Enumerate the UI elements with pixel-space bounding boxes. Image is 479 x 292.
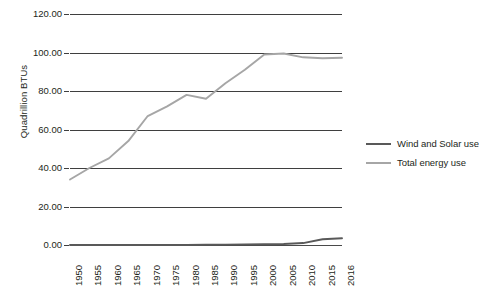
y-tick-label: 40.00	[0, 163, 62, 173]
x-tick-label: 2005	[288, 265, 298, 286]
x-tick-label: 2015	[327, 265, 337, 286]
x-tick-label: 1950	[74, 265, 84, 286]
x-tick-label: 1995	[249, 265, 259, 286]
x-tick-label: 2000	[268, 265, 278, 286]
y-tick-label: 120.00	[0, 9, 62, 19]
y-tick-label: 80.00	[0, 86, 62, 96]
x-tick-label: 1980	[191, 265, 201, 286]
y-tick-mark	[64, 53, 69, 54]
y-tick-mark	[64, 168, 69, 169]
series-line	[70, 238, 342, 245]
legend-item[interactable]: Wind and Solar use	[366, 134, 471, 153]
legend-swatch-icon	[366, 143, 391, 145]
series-line	[70, 53, 342, 179]
y-tick-mark	[64, 245, 69, 246]
y-tick-label: 100.00	[0, 48, 62, 58]
y-tick-mark	[64, 130, 69, 131]
x-tick-label: 1970	[152, 265, 162, 286]
x-tick-label: 2016	[346, 265, 356, 286]
y-tick-mark	[64, 91, 69, 92]
y-tick-label: 0.00	[0, 240, 62, 250]
legend-label: Wind and Solar use	[397, 138, 479, 149]
y-tick-label: 60.00	[0, 125, 62, 135]
legend-label: Total energy use	[397, 157, 466, 168]
x-tick-label: 1975	[171, 265, 181, 286]
legend-swatch-icon	[366, 162, 391, 164]
series-lines	[70, 14, 342, 245]
y-tick-mark	[64, 14, 69, 15]
x-tick-label: 1965	[132, 265, 142, 286]
y-tick-label: 20.00	[0, 202, 62, 212]
x-tick-label: 2010	[307, 265, 317, 286]
y-tick-mark	[64, 207, 69, 208]
x-tick-label: 1955	[93, 265, 103, 286]
plot-area	[70, 14, 342, 245]
legend-item[interactable]: Total energy use	[366, 153, 471, 172]
x-tick-label: 1985	[210, 265, 220, 286]
chart-legend: Wind and Solar useTotal energy use	[366, 134, 471, 172]
x-tick-label: 1960	[113, 265, 123, 286]
x-tick-label: 1990	[229, 265, 239, 286]
